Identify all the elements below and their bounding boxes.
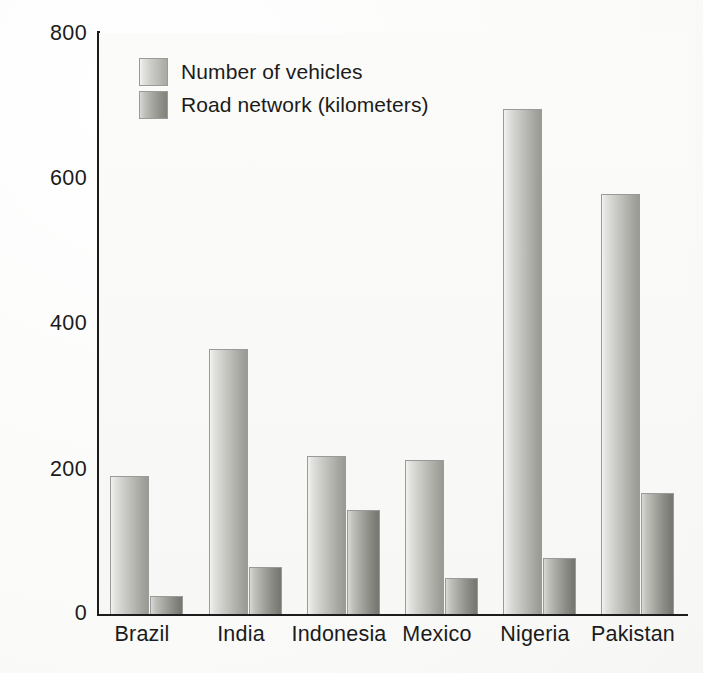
legend-item-vehicles: Number of vehicles — [139, 55, 429, 88]
bar-group-nigeria — [503, 33, 587, 614]
bar-nigeria-road — [543, 558, 576, 614]
bar-mexico-vehicles — [405, 460, 444, 614]
bar-pakistan-vehicles — [601, 194, 640, 614]
y-tick-label-600: 600 — [23, 166, 87, 191]
y-tick-label-400: 400 — [23, 311, 87, 336]
x-tick-label-pakistan: Pakistan — [553, 622, 703, 647]
legend-swatch-vehicles — [139, 58, 168, 86]
bar-mexico-road — [445, 578, 478, 614]
bar-india-road — [249, 567, 282, 614]
chart-legend: Number of vehicles Road network (kilomet… — [139, 55, 429, 121]
bar-chart: % Total growth 800 600 400 200 0 — [0, 0, 703, 673]
y-tick-label-800: 800 — [23, 21, 87, 46]
bar-indonesia-vehicles — [307, 456, 346, 614]
bar-india-vehicles — [209, 349, 248, 614]
bar-group-pakistan — [601, 33, 685, 614]
bar-pakistan-road — [641, 493, 674, 614]
bar-indonesia-road — [347, 510, 380, 614]
legend-swatch-road — [139, 91, 168, 119]
legend-item-road: Road network (kilometers) — [139, 88, 429, 121]
bar-brazil-vehicles — [110, 476, 149, 614]
bar-brazil-road — [150, 596, 183, 614]
legend-label-vehicles: Number of vehicles — [181, 60, 363, 84]
legend-label-road: Road network (kilometers) — [181, 93, 429, 117]
bar-nigeria-vehicles — [503, 109, 542, 614]
y-tick-label-200: 200 — [23, 457, 87, 482]
